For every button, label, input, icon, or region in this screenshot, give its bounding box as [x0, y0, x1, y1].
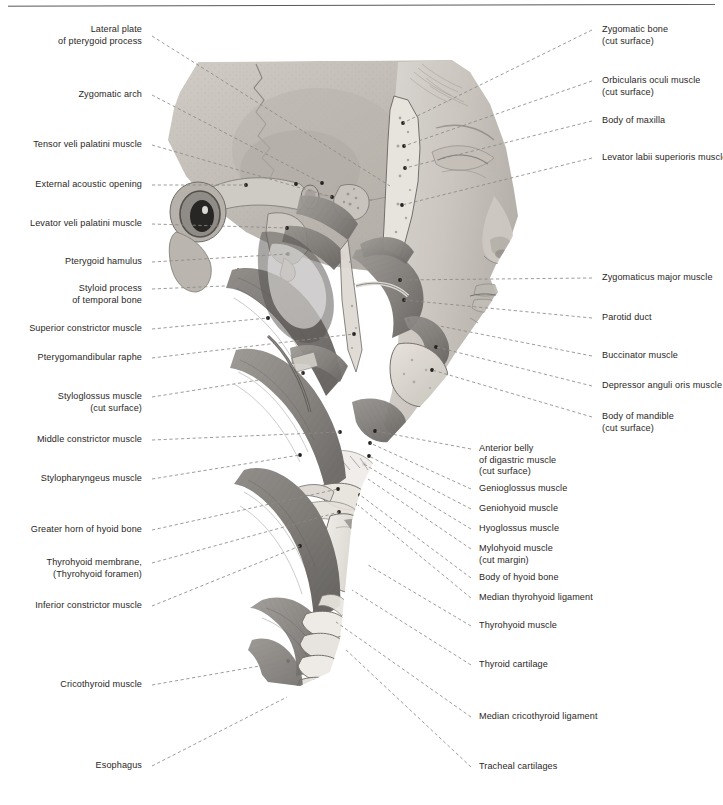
label-mylohyoid-muscle: Mylohyoid muscle(cut margin): [479, 543, 719, 566]
label-line: Cricothyroid muscle: [0, 679, 142, 691]
label-line: Esophagus: [0, 760, 142, 772]
label-tensor-veli-palatini-muscle: Tensor veli palatini muscle: [0, 139, 142, 151]
label-line: (Thyrohyoid foramen): [0, 569, 142, 581]
label-line: Pterygomandibular raphe: [0, 352, 142, 364]
label-line: Body of mandible: [602, 411, 719, 423]
label-line: Zygomatic bone: [602, 24, 719, 36]
label-line: Buccinator muscle: [602, 350, 719, 362]
label-line: (cut surface): [602, 87, 719, 99]
label-anterior-belly-of-digastric-muscle: Anterior bellyof digastric muscle(cut su…: [479, 443, 719, 478]
label-esophagus: Esophagus: [0, 760, 142, 772]
label-line: Depressor anguli oris muscle: [602, 380, 719, 392]
label-line: Tracheal cartilages: [479, 761, 719, 773]
label-pterygoid-hamulus: Pterygoid hamulus: [0, 256, 142, 268]
label-line: Zygomatic arch: [0, 89, 142, 101]
label-thyrohyoid-muscle: Thyrohyoid muscle: [479, 620, 719, 632]
label-line: Levator veli palatini muscle: [0, 218, 142, 230]
label-superior-constrictor-muscle: Superior constrictor muscle: [0, 323, 142, 335]
label-line: Median thyrohyoid ligament: [479, 592, 719, 604]
label-line: (cut surface): [479, 466, 719, 478]
label-line: of pterygoid process: [0, 36, 142, 48]
anatomy-plate: Lateral plateof pterygoid processZygomat…: [0, 0, 723, 805]
label-line: Mylohyoid muscle: [479, 543, 719, 555]
label-line: (cut surface): [602, 423, 719, 435]
label-external-acoustic-opening: External acoustic opening: [0, 179, 142, 191]
label-zygomatic-arch: Zygomatic arch: [0, 89, 142, 101]
label-median-thyrohyoid-ligament: Median thyrohyoid ligament: [479, 592, 719, 604]
label-line: Inferior constrictor muscle: [0, 600, 142, 612]
label-line: (cut surface): [602, 36, 719, 48]
label-line: Parotid duct: [602, 312, 719, 324]
label-line: Greater horn of hyoid bone: [0, 524, 142, 536]
label-middle-constrictor-muscle: Middle constrictor muscle: [0, 434, 142, 446]
label-buccinator-muscle: Buccinator muscle: [602, 350, 719, 362]
label-line: Geniohyoid muscle: [479, 503, 719, 515]
label-line: Levator labii superioris muscle: [602, 152, 719, 164]
label-line: Styloid process: [0, 283, 142, 295]
label-line: Pterygoid hamulus: [0, 256, 142, 268]
label-line: Hyoglossus muscle: [479, 523, 719, 535]
label-line: Thyrohyoid muscle: [479, 620, 719, 632]
label-line: Anterior belly: [479, 443, 719, 455]
label-pterygomandibular-raphe: Pterygomandibular raphe: [0, 352, 142, 364]
label-inferior-constrictor-muscle: Inferior constrictor muscle: [0, 600, 142, 612]
label-body-of-mandible: Body of mandible(cut surface): [602, 411, 719, 434]
label-thyroid-cartilage: Thyroid cartilage: [479, 659, 719, 671]
label-orbicularis-oculi-muscle: Orbicularis oculi muscle(cut surface): [602, 75, 719, 98]
label-greater-horn-of-hyoid-bone: Greater horn of hyoid bone: [0, 524, 142, 536]
label-line: Zygomaticus major muscle: [602, 272, 719, 284]
label-depressor-anguli-oris-muscle: Depressor anguli oris muscle: [602, 380, 719, 392]
label-line: Median cricothyroid ligament: [479, 711, 719, 723]
label-line: Styloglossus muscle: [0, 391, 142, 403]
label-line: (cut margin): [479, 555, 719, 567]
label-geniohyoid-muscle: Geniohyoid muscle: [479, 503, 719, 515]
label-body-of-maxilla: Body of maxilla: [602, 115, 719, 127]
label-line: Thyrohyoid membrane,: [0, 557, 142, 569]
label-line: Orbicularis oculi muscle: [602, 75, 719, 87]
label-styloglossus-muscle: Styloglossus muscle(cut surface): [0, 391, 142, 414]
label-line: Thyroid cartilage: [479, 659, 719, 671]
label-body-of-hyoid-bone: Body of hyoid bone: [479, 572, 719, 584]
label-line: Genioglossus muscle: [479, 483, 719, 495]
label-levator-labii-superioris-muscle: Levator labii superioris muscle: [602, 152, 719, 164]
label-lateral-plate-of-pterygoid-process: Lateral plateof pterygoid process: [0, 24, 142, 47]
label-line: of temporal bone: [0, 295, 142, 307]
label-parotid-duct: Parotid duct: [602, 312, 719, 324]
label-levator-veli-palatini-muscle: Levator veli palatini muscle: [0, 218, 142, 230]
label-line: Superior constrictor muscle: [0, 323, 142, 335]
label-zygomaticus-major-muscle: Zygomaticus major muscle: [602, 272, 719, 284]
label-line: Body of maxilla: [602, 115, 719, 127]
label-line: (cut surface): [0, 403, 142, 415]
label-line: Middle constrictor muscle: [0, 434, 142, 446]
label-tracheal-cartilages: Tracheal cartilages: [479, 761, 719, 773]
label-stylopharyngeus-muscle: Stylopharyngeus muscle: [0, 473, 142, 485]
label-cricothyroid-muscle: Cricothyroid muscle: [0, 679, 142, 691]
label-median-cricothyroid-ligament: Median cricothyroid ligament: [479, 711, 719, 723]
label-thyrohyoid-membrane-foramen: Thyrohyoid membrane,(Thyrohyoid foramen): [0, 557, 142, 580]
label-line: of digastric muscle: [479, 455, 719, 467]
label-styloid-process-of-temporal-bone: Styloid processof temporal bone: [0, 283, 142, 306]
label-line: Body of hyoid bone: [479, 572, 719, 584]
label-hyoglossus-muscle: Hyoglossus muscle: [479, 523, 719, 535]
label-line: Lateral plate: [0, 24, 142, 36]
label-genioglossus-muscle: Genioglossus muscle: [479, 483, 719, 495]
label-zygomatic-bone: Zygomatic bone(cut surface): [602, 24, 719, 47]
label-line: External acoustic opening: [0, 179, 142, 191]
label-line: Tensor veli palatini muscle: [0, 139, 142, 151]
label-line: Stylopharyngeus muscle: [0, 473, 142, 485]
